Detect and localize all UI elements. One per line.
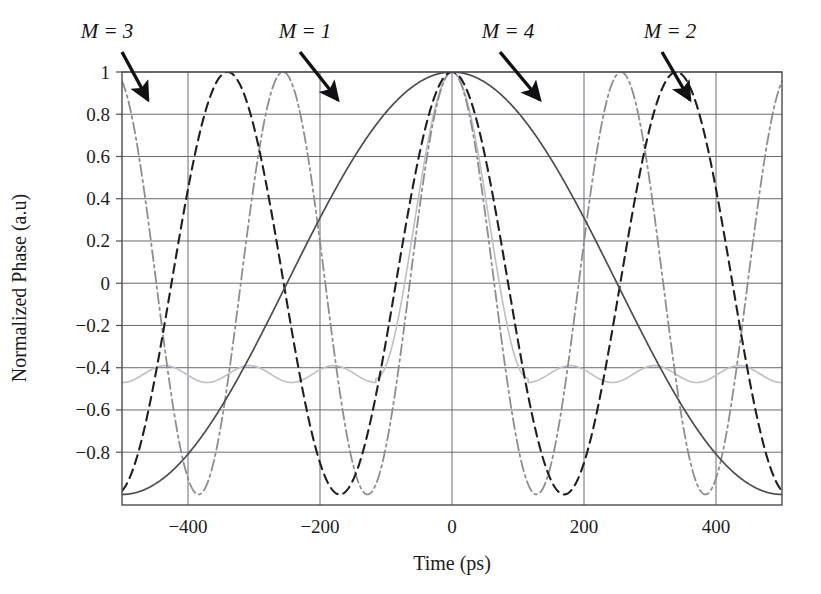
series-annotation-label: M = 1 xyxy=(278,19,332,43)
x-axis-title: Time (ps) xyxy=(413,552,491,575)
x-tick-label: −400 xyxy=(168,516,207,537)
y-tick-label: 0 xyxy=(101,273,111,294)
series-annotation-label: M = 3 xyxy=(80,19,134,43)
y-tick-label: 0.4 xyxy=(86,188,110,209)
y-tick-label: 1 xyxy=(101,62,111,83)
chart-figure: 10.80.60.40.20−0.2−0.4−0.6−0.8−400−20002… xyxy=(0,0,821,594)
x-tick-label: 400 xyxy=(702,516,731,537)
y-tick-label: 0.6 xyxy=(86,146,110,167)
y-axis-title: Normalized Phase (a.u) xyxy=(8,194,31,382)
x-tick-label: 200 xyxy=(570,516,599,537)
y-tick-label: 0.2 xyxy=(86,230,110,251)
y-tick-label: −0.6 xyxy=(76,399,110,420)
y-tick-label: −0.8 xyxy=(76,442,110,463)
series-annotation-label: M = 4 xyxy=(481,19,535,43)
y-tick-label: −0.2 xyxy=(76,315,110,336)
x-tick-label: 0 xyxy=(447,516,457,537)
x-tick-label: −200 xyxy=(300,516,339,537)
series-annotation-label: M = 2 xyxy=(643,19,697,43)
chart-canvas: 10.80.60.40.20−0.2−0.4−0.6−0.8−400−20002… xyxy=(0,0,821,594)
y-tick-label: 0.8 xyxy=(86,104,110,125)
y-tick-label: −0.4 xyxy=(76,357,111,378)
